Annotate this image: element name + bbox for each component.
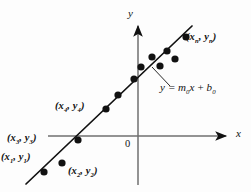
regression-scatter-figure <box>0 0 251 192</box>
origin-label: 0 <box>125 139 130 150</box>
data-point <box>102 105 109 112</box>
point-label-x1: (x1, y1) <box>1 152 31 165</box>
x-axis-label: x <box>236 128 241 139</box>
data-point <box>74 136 81 143</box>
data-point <box>148 53 155 60</box>
data-point <box>163 47 170 54</box>
point-label-xn: (xn, yn) <box>186 32 216 45</box>
data-point <box>156 62 163 69</box>
point-label-x3: (x3, y3) <box>7 133 37 146</box>
data-point <box>130 75 137 82</box>
data-point <box>137 63 144 70</box>
regression-equation-label: y = m0x + b0 <box>160 82 216 96</box>
data-point <box>40 168 47 175</box>
point-label-x4: (x4, y4) <box>55 101 85 114</box>
y-axis-label: y <box>128 8 133 19</box>
data-point <box>114 91 121 98</box>
data-point <box>171 55 178 62</box>
data-point <box>58 159 65 166</box>
point-label-x2: (x2, y2) <box>68 166 98 179</box>
